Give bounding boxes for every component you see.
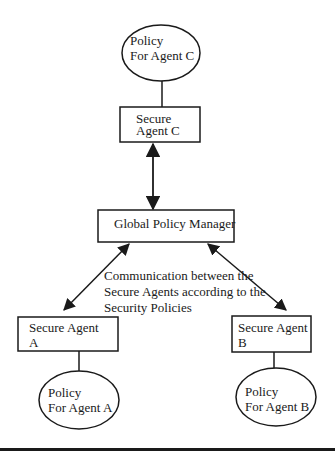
policy-a-label-2: For Agent A [48,400,112,415]
policy-c-label-2: For Agent C [130,48,194,63]
bottom-rule [0,448,335,451]
agent-c-label-2: Agent C [136,123,180,138]
policy-b-label-2: For Agent B [245,399,309,414]
agent-b-label-1: Secure Agent [238,320,308,335]
annotation-line-2: Secure Agents according to the [104,284,266,299]
policy-b-label-1: Policy [245,384,278,399]
global-manager-label: Global Policy Manager [114,216,235,231]
agent-a-label-2: A [29,335,38,350]
annotation-line-3: Security Policies [104,300,192,315]
agent-b-label-2: B [238,335,247,350]
policy-a-label-1: Policy [48,385,81,400]
annotation-line-1: Communication between the [104,268,253,283]
policy-c-label-1: Policy [130,33,163,48]
agent-a-label-1: Secure Agent [29,320,99,335]
